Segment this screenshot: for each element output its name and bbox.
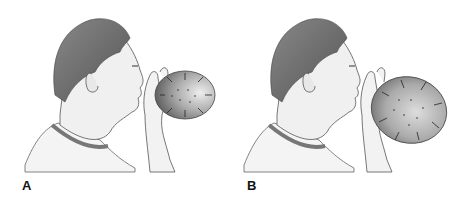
- panel-a: A: [0, 0, 229, 203]
- man-blowing-balloon-illustration-b: [229, 0, 458, 203]
- panel-b: B: [229, 0, 458, 203]
- panel-label-a: A: [22, 178, 31, 193]
- panel-label-b: B: [247, 178, 256, 193]
- man-blowing-balloon-illustration-a: [0, 0, 229, 203]
